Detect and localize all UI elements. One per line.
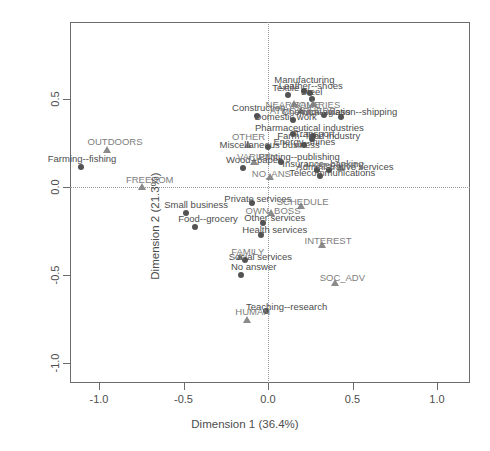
x-tick-label: 0.0 xyxy=(260,393,275,405)
x-tick-label: 0.5 xyxy=(345,393,360,405)
y-tick xyxy=(63,99,70,100)
zero-reference-line-horizontal xyxy=(70,187,470,188)
data-point-label: VARIETY xyxy=(237,152,277,162)
circle-marker-icon xyxy=(78,164,84,170)
x-tick xyxy=(353,383,354,390)
data-point-label: INTEREST xyxy=(304,236,351,246)
data-point-label: Food--grocery xyxy=(178,214,238,224)
data-point-label: NO_ANS xyxy=(252,169,291,179)
data-point-label: Health services xyxy=(242,225,307,235)
x-tick xyxy=(268,383,269,390)
x-tick xyxy=(184,383,185,390)
x-tick xyxy=(99,383,100,390)
y-tick-label: 0.5 xyxy=(49,84,61,114)
data-point-label: OUTDOORS xyxy=(88,137,143,147)
circle-marker-icon xyxy=(238,272,244,278)
data-point-label: FAMILY xyxy=(231,247,264,257)
correspondence-analysis-plot: -1.0-0.50.00.51.0 0.50.0-0.5-1.0 Farming… xyxy=(0,0,490,451)
x-axis-title: Dimension 1 (36.4%) xyxy=(0,418,490,430)
y-tick-label: 0.0 xyxy=(49,172,61,202)
data-point-label: No answer xyxy=(231,262,276,272)
circle-marker-icon xyxy=(192,224,198,230)
data-point-label: Farming--fishing xyxy=(48,154,117,164)
y-tick xyxy=(63,363,70,364)
circle-marker-icon xyxy=(240,165,246,171)
triangle-marker-icon xyxy=(243,316,251,323)
y-tick-label: -0.5 xyxy=(49,260,61,290)
y-tick-label: -1.0 xyxy=(49,348,61,378)
data-point-label: SECURITY xyxy=(317,161,365,171)
x-tick-label: -1.0 xyxy=(90,393,109,405)
y-axis-title: Dimension 2 (21.3%) xyxy=(149,0,163,451)
data-point-label: Small business xyxy=(164,200,228,210)
data-point-label: ATMOSPHERE xyxy=(270,106,336,116)
data-point-label: Steel xyxy=(301,87,323,97)
x-tick-label: -0.5 xyxy=(174,393,193,405)
x-tick-label: 1.0 xyxy=(429,393,444,405)
y-tick xyxy=(63,187,70,188)
data-point-label: SOC_ADV xyxy=(320,273,365,283)
x-tick xyxy=(437,383,438,390)
data-point-label: OTHER xyxy=(232,132,265,142)
data-point-label: OWN_BOSS xyxy=(246,206,301,216)
data-point-label: HUMAN xyxy=(235,307,270,317)
y-tick xyxy=(63,275,70,276)
